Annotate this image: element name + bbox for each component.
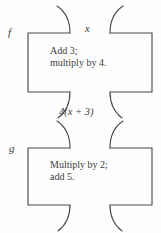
machine-f-inlet-right-curve bbox=[110, 6, 123, 33]
machine-f-outlet-right-curve bbox=[110, 92, 122, 118]
intermediate-value-label: 4(x + 3) bbox=[59, 106, 94, 119]
input-value-label: x bbox=[85, 23, 90, 36]
machine-g-outlet-left-curve bbox=[58, 205, 70, 231]
machine-g-inlet-right-curve bbox=[110, 121, 123, 148]
machine-g-name-label: g bbox=[9, 142, 15, 155]
machine-f-body-right bbox=[110, 33, 152, 92]
machine-g-rule-text: Multiply by 2; add 5. bbox=[50, 159, 108, 183]
function-machine-figure: f g x 4(x + 3) Add 3; multiply by 4. Mul… bbox=[0, 0, 161, 233]
machine-g-outlet-right-curve bbox=[110, 205, 122, 231]
machine-f-inlet-left-curve bbox=[57, 6, 70, 33]
machine-g-inlet-left-curve bbox=[57, 121, 70, 148]
machine-g-body-right bbox=[110, 148, 152, 205]
machine-f-name-label: f bbox=[8, 26, 11, 39]
machine-f-rule-text: Add 3; multiply by 4. bbox=[50, 45, 106, 69]
